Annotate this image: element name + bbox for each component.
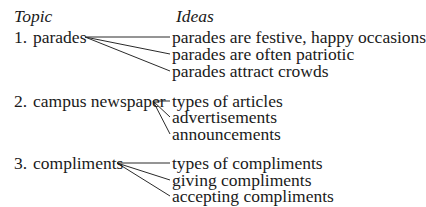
idea-2-3: announcements — [172, 124, 281, 144]
idea-1-3: parades attract crowds — [172, 61, 328, 81]
topic-2-number: 2. — [14, 91, 27, 111]
topic-header: Topic — [14, 6, 52, 26]
topic-1-label: parades — [33, 27, 86, 47]
topic-1-number: 1. — [14, 27, 27, 47]
topic-3-number: 3. — [14, 153, 27, 173]
idea-3-3: accepting compliments — [172, 186, 334, 206]
topic-2-label: campus newspaper — [33, 91, 166, 111]
ideas-header: Ideas — [176, 6, 214, 26]
topic-3-label: compliments — [33, 153, 123, 173]
